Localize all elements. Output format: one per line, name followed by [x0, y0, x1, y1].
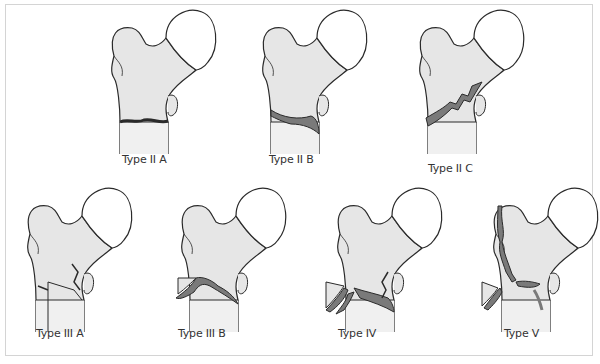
panel-type-4: Type IV: [318, 182, 458, 352]
caption-type-4: Type IV: [338, 327, 376, 340]
caption-type-2b: Type II B: [269, 153, 314, 166]
caption-type-3a: Type III A: [36, 327, 84, 340]
caption-type-2c: Type II C: [428, 162, 473, 175]
femur-illustration-type-3b: [162, 182, 292, 332]
caption-type-2a: Type II A: [122, 153, 166, 166]
femur-illustration-type-2a: [92, 4, 222, 154]
femur-illustration-type-5: [474, 182, 600, 332]
caption-type-5: Type V: [504, 327, 539, 340]
panel-type-5: Type V: [474, 182, 600, 352]
femur-illustration-type-3a: [8, 182, 138, 332]
femur-illustration-type-2c: [400, 4, 530, 154]
caption-type-3b: Type III B: [178, 327, 226, 340]
panel-type-2a: Type II A: [92, 4, 232, 164]
femur-illustration-type-4: [318, 182, 448, 332]
panel-type-2b: Type II B: [243, 4, 383, 164]
panel-type-2c: Type II C: [400, 4, 540, 164]
panel-type-3b: Type III B: [162, 182, 302, 352]
femur-illustration-type-2b: [243, 4, 373, 154]
panel-type-3a: Type III A: [8, 182, 148, 352]
